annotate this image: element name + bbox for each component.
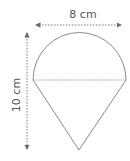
width-label: 8 cm [69, 8, 96, 21]
cone-diagram: 8 cm 10 cm [0, 0, 130, 161]
height-label: 10 cm [10, 78, 23, 112]
semicircle-outline [33, 32, 126, 80]
cone-triangle-outline [33, 80, 126, 150]
